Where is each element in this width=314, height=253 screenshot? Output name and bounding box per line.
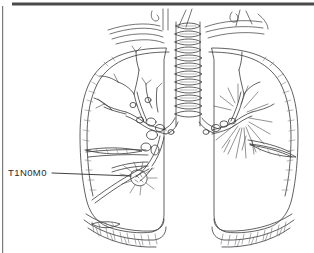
tumor-nodule: [120, 162, 157, 195]
trachea-and-spine: [162, 22, 219, 134]
diaphragm: [84, 214, 294, 247]
tumor-stage-label: T1N0M0: [8, 167, 47, 179]
figure-page: T1N0M0: [0, 0, 314, 253]
lung-anatomy-illustration: [0, 0, 314, 253]
bronchial-tree-right: [212, 52, 274, 158]
leader-line: [52, 173, 131, 176]
left-lung: [80, 48, 169, 233]
right-lung: [209, 48, 298, 233]
bronchial-tree-left: [94, 46, 166, 181]
pulmonary-vessels: [86, 144, 296, 172]
